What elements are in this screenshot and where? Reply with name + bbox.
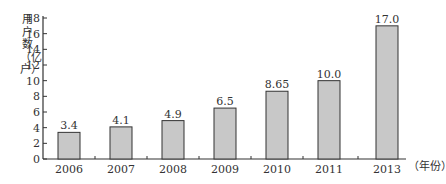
bar bbox=[58, 132, 80, 159]
bar-value-label: 4.9 bbox=[164, 108, 182, 121]
x-axis-unit-label: （年份） bbox=[408, 157, 446, 173]
y-tick-label: 10 bbox=[26, 75, 40, 88]
y-axis-label: 用户数（亿户） bbox=[20, 14, 34, 77]
bar bbox=[266, 91, 288, 159]
bar-value-label: 10.0 bbox=[317, 68, 342, 81]
x-tick-label: 2009 bbox=[211, 163, 239, 176]
y-tick-label: 2 bbox=[33, 137, 40, 150]
x-tick-label: 2013 bbox=[373, 163, 401, 176]
x-tick-label: 2007 bbox=[107, 163, 135, 176]
y-tick-label: 4 bbox=[33, 122, 40, 135]
x-tick-label: 2010 bbox=[263, 163, 291, 176]
bar bbox=[376, 26, 398, 159]
bar-value-label: 17.0 bbox=[375, 13, 400, 26]
bar-value-label: 8.65 bbox=[265, 78, 290, 91]
x-tick-label: 2006 bbox=[55, 163, 83, 176]
chart-plot-area: 0246810121416183.420064.120074.920086.52… bbox=[0, 0, 446, 184]
bar bbox=[214, 108, 236, 159]
bar bbox=[110, 127, 132, 159]
bar-value-label: 3.4 bbox=[60, 119, 78, 132]
bar-chart: 0246810121416183.420064.120074.920086.52… bbox=[0, 0, 446, 184]
x-tick-label: 2008 bbox=[159, 163, 187, 176]
bar bbox=[162, 121, 184, 159]
bar bbox=[318, 81, 340, 159]
y-tick-label: 8 bbox=[33, 90, 40, 103]
y-tick-label: 6 bbox=[33, 106, 40, 119]
x-tick-label: 2011 bbox=[315, 163, 343, 176]
y-tick-label: 0 bbox=[33, 153, 40, 166]
bar-value-label: 4.1 bbox=[112, 114, 130, 127]
bar-value-label: 6.5 bbox=[216, 95, 234, 108]
